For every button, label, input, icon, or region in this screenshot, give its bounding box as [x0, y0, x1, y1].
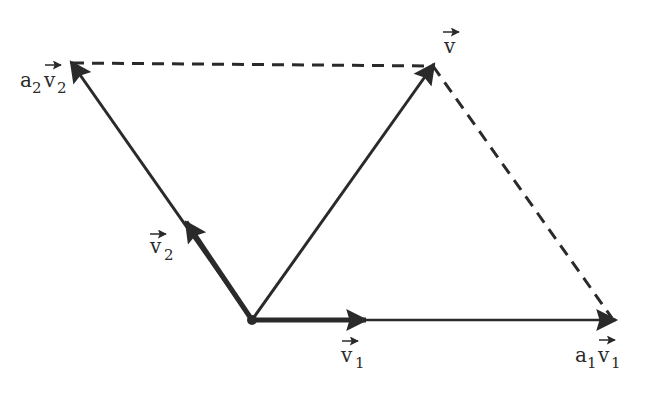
svg-text:v: v — [443, 34, 456, 58]
vector-v2 — [186, 222, 252, 320]
dashed-top-edge — [72, 63, 433, 66]
svg-text:a: a — [20, 68, 32, 92]
label-v: v — [443, 32, 459, 58]
label-v2: v 2 — [149, 234, 174, 264]
svg-text:2: 2 — [57, 79, 67, 97]
vector-diagram: v v 1 v 2 a 1 v 1 a 2 v 2 — [0, 0, 649, 395]
svg-text:v: v — [597, 343, 610, 367]
dashed-right-edge — [433, 66, 612, 318]
vector-v — [252, 64, 434, 320]
svg-text:1: 1 — [611, 354, 621, 372]
svg-text:a: a — [575, 343, 587, 367]
label-a1v1: a 1 v 1 — [575, 340, 621, 372]
dashed-edges — [72, 63, 612, 318]
svg-text:1: 1 — [355, 354, 365, 372]
label-a2v2: a 2 v 2 — [20, 65, 67, 97]
svg-text:v: v — [43, 68, 56, 92]
svg-text:v: v — [340, 343, 353, 367]
svg-text:1: 1 — [587, 354, 597, 372]
svg-text:v: v — [149, 234, 162, 258]
svg-text:2: 2 — [164, 246, 174, 264]
origin-point — [247, 315, 257, 325]
svg-text:2: 2 — [32, 79, 42, 97]
label-v1: v 1 — [340, 341, 365, 372]
